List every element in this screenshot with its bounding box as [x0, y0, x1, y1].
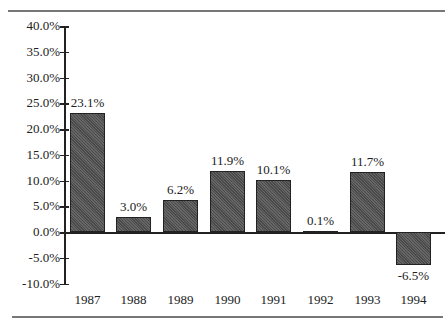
bar-1987	[70, 113, 105, 232]
x-tick-label: 1991	[251, 293, 297, 307]
bar-1992	[303, 231, 338, 233]
y-tick	[60, 78, 69, 80]
value-label: 11.7%	[343, 155, 393, 169]
y-tick-label: 20.0%	[4, 122, 60, 136]
bar-1991	[256, 180, 291, 232]
y-tick-label: 0.0%	[4, 225, 60, 239]
y-tick	[60, 232, 69, 234]
y-tick-label: 35.0%	[4, 45, 60, 59]
bar-chart: 40.0%35.0%30.0%25.0%20.0%15.0%10.0%5.0%0…	[0, 0, 448, 326]
value-label: 3.0%	[109, 200, 159, 214]
value-label: -6.5%	[389, 269, 439, 283]
y-tick	[60, 206, 69, 208]
value-label: 11.9%	[203, 154, 253, 168]
value-label: 10.1%	[249, 163, 299, 177]
y-tick	[60, 155, 69, 157]
y-tick	[60, 258, 69, 260]
x-tick-label: 1994	[391, 293, 437, 307]
y-tick-label: 5.0%	[4, 199, 60, 213]
bottom-rule	[12, 316, 443, 318]
x-tick-label: 1988	[111, 293, 157, 307]
x-tick-label: 1993	[345, 293, 391, 307]
x-tick-label: 1987	[65, 293, 111, 307]
bar-1994	[396, 232, 431, 265]
y-tick-label: -5.0%	[4, 251, 60, 265]
bar-1993	[350, 172, 385, 232]
bar-1989	[163, 200, 198, 232]
y-tick-label: -10.0%	[4, 277, 60, 291]
bar-1988	[116, 217, 151, 232]
zero-line	[64, 232, 445, 234]
y-tick	[60, 26, 69, 28]
x-tick-label: 1989	[158, 293, 204, 307]
y-tick-label: 25.0%	[4, 96, 60, 110]
value-label: 6.2%	[156, 183, 206, 197]
value-label: 23.1%	[63, 96, 113, 110]
x-tick-label: 1990	[205, 293, 251, 307]
y-tick	[60, 284, 69, 286]
y-tick-label: 40.0%	[4, 19, 60, 33]
y-tick	[60, 129, 69, 131]
y-tick-label: 30.0%	[4, 71, 60, 85]
y-tick-label: 15.0%	[4, 148, 60, 162]
y-tick	[60, 181, 69, 183]
y-tick-label: 10.0%	[4, 174, 60, 188]
value-label: 0.1%	[296, 214, 346, 228]
bar-1990	[210, 171, 245, 232]
y-tick	[60, 52, 69, 54]
x-tick-label: 1992	[298, 293, 344, 307]
